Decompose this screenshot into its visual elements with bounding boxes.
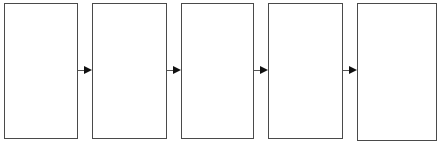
process-box-3	[181, 3, 254, 139]
process-box-4	[268, 3, 343, 139]
arrowhead-icon	[84, 66, 92, 74]
process-box-5	[357, 3, 437, 141]
arrowhead-icon	[349, 66, 357, 74]
arrowhead-icon	[173, 66, 181, 74]
process-box-2	[92, 3, 167, 139]
process-box-1	[4, 3, 78, 139]
arrowhead-icon	[260, 66, 268, 74]
connector-arrow-2	[167, 70, 181, 72]
connector-arrow-1	[78, 70, 92, 72]
connector-arrow-4	[343, 70, 357, 72]
connector-arrow-3	[254, 70, 268, 72]
